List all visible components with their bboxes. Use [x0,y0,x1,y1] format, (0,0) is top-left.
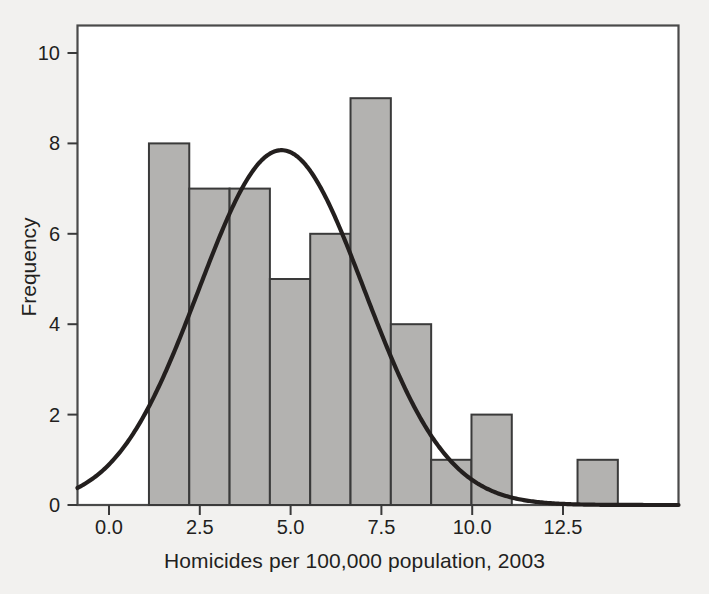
y-axis-label: Frequency [17,197,41,337]
histogram-bar [189,189,229,505]
x-tick-label: 7.5 [367,516,395,539]
histogram-bar [270,279,310,505]
x-tick-label: 10.0 [453,516,492,539]
x-tick-label: 5.0 [277,516,305,539]
histogram-bar [230,189,270,505]
y-tick-label: 0 [22,494,60,517]
histogram-bar [578,460,618,505]
y-tick-label: 2 [22,403,60,426]
x-axis-label: Homicides per 100,000 population, 2003 [0,549,709,573]
y-tick-label: 10 [22,42,60,65]
histogram-figure [0,0,709,594]
x-tick-label: 12.5 [544,516,583,539]
x-tick-label: 2.5 [186,516,214,539]
histogram-bar [391,324,431,505]
histogram-bar [431,460,471,505]
y-tick-label: 8 [22,132,60,155]
histogram-bar [310,234,350,505]
x-tick-label: 0.0 [95,516,123,539]
